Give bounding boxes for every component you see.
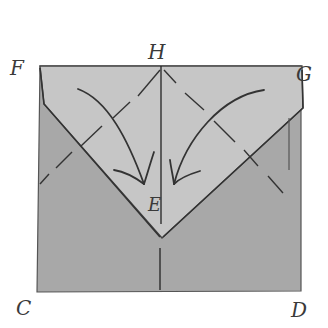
label-d: D	[291, 300, 307, 320]
label-f: F	[10, 58, 24, 78]
label-g: G	[296, 64, 312, 84]
label-c: C	[16, 298, 31, 318]
label-e: E	[148, 196, 161, 214]
label-h: H	[148, 42, 165, 62]
